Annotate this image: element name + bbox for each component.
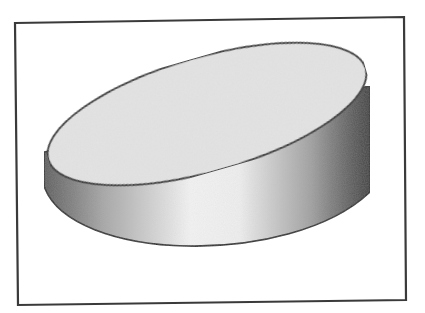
cylinder-figure [0, 0, 425, 313]
